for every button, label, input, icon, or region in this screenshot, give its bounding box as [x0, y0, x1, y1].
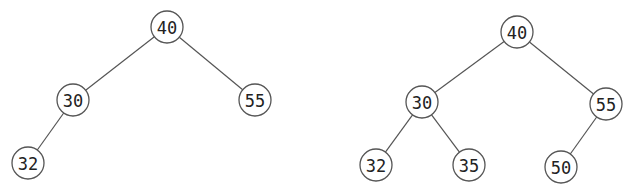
- tree-node: 35: [453, 149, 485, 181]
- node-label: 30: [412, 93, 432, 113]
- nodes-layer: 40305532403055323550: [12, 11, 622, 183]
- tree-node: 40: [151, 11, 183, 43]
- edges-layer: [37, 37, 596, 154]
- node-label: 30: [63, 91, 83, 111]
- tree-node: 30: [57, 84, 89, 116]
- node-label: 50: [551, 158, 571, 178]
- tree-edge: [86, 37, 155, 90]
- tree-edge: [435, 41, 504, 92]
- node-label: 40: [507, 23, 527, 43]
- tree-node: 32: [12, 147, 44, 179]
- node-label: 40: [157, 18, 177, 38]
- node-label: 35: [459, 156, 479, 176]
- tree-node: 55: [239, 84, 271, 116]
- tree-node: 30: [406, 86, 438, 118]
- tree-edge: [385, 115, 412, 152]
- node-label: 32: [366, 156, 386, 176]
- tree-node: 40: [501, 16, 533, 48]
- right-tree-nodes: 403055323550: [360, 16, 622, 183]
- tree-edge: [432, 115, 460, 152]
- node-label: 32: [18, 154, 38, 174]
- tree-edge: [570, 117, 596, 154]
- tree-node: 50: [545, 151, 577, 183]
- tree-edge: [37, 113, 63, 150]
- left-tree-nodes: 40305532: [12, 11, 271, 179]
- tree-node: 55: [590, 88, 622, 120]
- tree-edge: [179, 37, 242, 90]
- node-label: 55: [596, 95, 616, 115]
- tree-diagram-canvas: 40305532403055323550: [0, 0, 634, 195]
- node-label: 55: [245, 91, 265, 111]
- tree-edge: [529, 42, 593, 94]
- tree-node: 32: [360, 149, 392, 181]
